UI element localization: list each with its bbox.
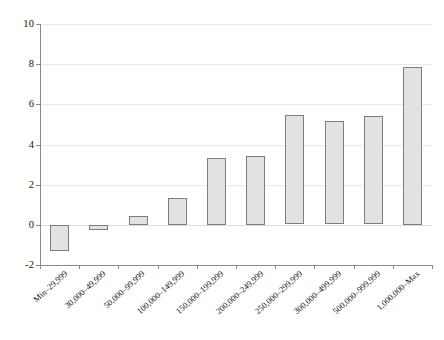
bar bbox=[325, 121, 344, 224]
bar bbox=[89, 225, 108, 230]
y-axis-label-6: 6 bbox=[2, 99, 34, 110]
bar bbox=[285, 115, 304, 224]
y-axis-label-4: 4 bbox=[2, 140, 34, 151]
bar bbox=[403, 67, 422, 225]
gridline-6 bbox=[40, 104, 432, 105]
bar bbox=[364, 116, 383, 224]
y-axis-line bbox=[40, 24, 41, 265]
x-axis-label-inner: 1,000,000–Max bbox=[364, 268, 418, 277]
x-axis-label: 1,000,000–Max bbox=[375, 269, 421, 312]
x-tick-10 bbox=[432, 265, 433, 269]
y-axis-label-wrap: 0 bbox=[0, 220, 34, 231]
y-axis-label-wrap: 6 bbox=[0, 99, 34, 110]
y-axis-label-wrap: 10 bbox=[0, 19, 34, 30]
y-axis-label-wrap: 4 bbox=[0, 140, 34, 151]
bar-chart: -20246810 Min–29,99930,000–49,99950,000–… bbox=[0, 0, 444, 340]
y-axis-label-10: 10 bbox=[2, 19, 34, 30]
bar bbox=[168, 198, 187, 225]
bar bbox=[129, 216, 148, 225]
y-axis-label-0: 0 bbox=[2, 220, 34, 231]
y-axis-label-wrap: 2 bbox=[0, 180, 34, 191]
y-axis-label-8: 8 bbox=[2, 59, 34, 70]
y-axis-label-2: 2 bbox=[2, 180, 34, 191]
bar bbox=[246, 156, 265, 225]
gridline-8 bbox=[40, 64, 432, 65]
y-axis-label-wrap: 8 bbox=[0, 59, 34, 70]
bar bbox=[207, 158, 226, 225]
gridline-10 bbox=[40, 24, 432, 25]
bar bbox=[50, 225, 69, 251]
